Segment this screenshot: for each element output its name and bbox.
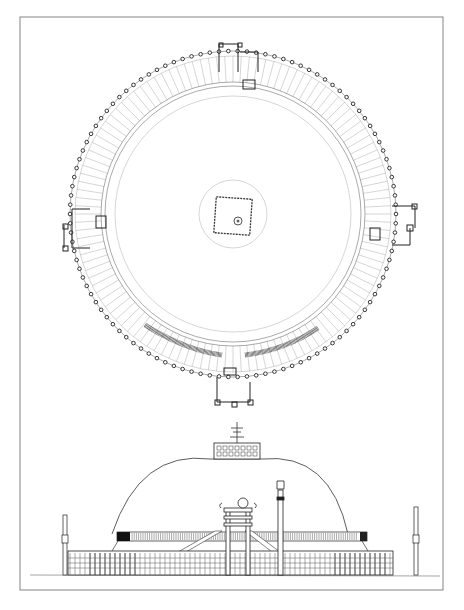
drawing-frame [20, 17, 443, 590]
railing-post [155, 356, 159, 360]
paving-line [311, 86, 326, 107]
drum-inner [105, 86, 361, 342]
paving-line [326, 307, 344, 325]
paving-line [78, 181, 103, 186]
paving-line [354, 268, 378, 279]
paving-line [85, 157, 109, 166]
railing-post [331, 83, 335, 87]
railing-post [132, 341, 136, 345]
paving-line [331, 302, 350, 319]
paving-line [365, 206, 391, 207]
railing-post [381, 276, 385, 280]
paving-line [89, 268, 113, 279]
railing-post [282, 57, 286, 61]
paving-line [359, 165, 384, 173]
railing-post [299, 360, 303, 364]
paving-line [336, 297, 356, 313]
railing-post [89, 132, 93, 136]
railing-post [227, 375, 231, 379]
paving-line [100, 128, 122, 142]
paving-line [287, 335, 298, 359]
paving-line [77, 189, 103, 193]
paving-line [127, 312, 144, 331]
ashoka-pillar [277, 481, 284, 575]
railing-post [245, 375, 249, 379]
railing-post [78, 157, 82, 161]
railing-post [392, 184, 396, 188]
paving-line [247, 57, 250, 83]
railing-post [390, 175, 394, 179]
railing-post [338, 89, 342, 93]
railing-post [357, 315, 361, 319]
paving-line [200, 343, 205, 368]
gateway-south [215, 368, 253, 407]
paving-line [110, 115, 130, 131]
railing-post [124, 89, 128, 93]
paving-line [80, 248, 105, 255]
railing-post [363, 116, 367, 120]
paving-line [77, 235, 103, 239]
railing-post [89, 292, 93, 296]
paving-line [192, 61, 199, 86]
paving-line [89, 150, 113, 161]
railing-post [254, 374, 258, 378]
railing-post [147, 73, 151, 77]
railing-post [331, 341, 335, 345]
railing-post [172, 364, 176, 368]
railing-post [351, 322, 355, 326]
paving-line [134, 91, 150, 111]
railing-post [172, 60, 176, 64]
railing-post [118, 95, 122, 99]
paving-line [83, 165, 108, 173]
harmika-circle [199, 180, 267, 248]
dome-base [115, 96, 351, 332]
railing-post [72, 249, 76, 253]
post-right [413, 507, 419, 575]
railing-post [388, 166, 392, 170]
paving-line [260, 343, 265, 368]
railing-post [273, 370, 277, 374]
railing-post [68, 212, 72, 216]
plan-view [63, 43, 417, 407]
railing-post [105, 109, 109, 113]
railing-post [390, 249, 394, 253]
railing-post [147, 352, 151, 356]
harmika-elevation [214, 443, 260, 459]
paving-line [216, 345, 219, 371]
railing-post [163, 64, 167, 68]
railing-post [373, 292, 377, 296]
paving-line [361, 173, 386, 180]
paving-line [176, 66, 185, 90]
railing-post [254, 51, 258, 55]
post-left [62, 515, 68, 575]
railing-post [345, 329, 349, 333]
chattra-core [237, 220, 240, 223]
paving-line [247, 345, 250, 371]
railing-post [290, 364, 294, 368]
stairway-right [245, 328, 318, 355]
paving-line [225, 56, 226, 82]
railing-post [94, 300, 98, 304]
railing-post [264, 52, 268, 56]
paving-line [344, 286, 366, 300]
railing-post [75, 166, 79, 170]
paving-divisions [75, 56, 391, 372]
railing-post [315, 73, 319, 77]
paving-line [365, 221, 391, 222]
paving-line [267, 342, 274, 367]
railing-post [199, 52, 203, 56]
railing-post [351, 102, 355, 106]
railing-post [368, 124, 372, 128]
paving-line [127, 97, 144, 116]
railing-post [155, 68, 159, 72]
paving-line [316, 317, 332, 337]
chattra-finial [230, 422, 244, 443]
railing-post [345, 95, 349, 99]
railing-post [163, 360, 167, 364]
paving-line [240, 346, 241, 372]
railing-post [282, 367, 286, 371]
paving-line [121, 102, 139, 120]
railing-post [139, 78, 143, 82]
paving-line [116, 108, 135, 125]
railing-post [377, 284, 381, 288]
